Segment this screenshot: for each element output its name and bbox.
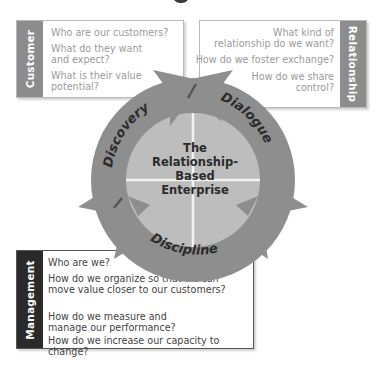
center-title: The Relationship- Based Enterprise [143, 141, 247, 197]
center-title-line-3: Based [143, 169, 247, 183]
center-title-line-1: The [143, 141, 247, 155]
center-title-line-4: Enterprise [143, 183, 247, 197]
center-title-line-2: Relationship- [143, 155, 247, 169]
